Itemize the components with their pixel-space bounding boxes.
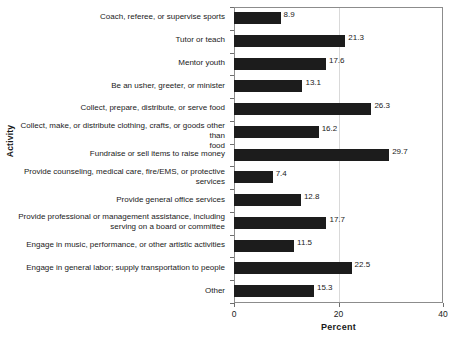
bar-row: 7.4: [234, 166, 443, 189]
category-label: Collect, make, or distribute clothing, c…: [10, 121, 225, 151]
bar-row: 17.7: [234, 212, 443, 235]
bar: [234, 262, 352, 274]
x-tick-label: 0: [232, 309, 237, 319]
category-label: Collect, prepare, distribute, or serve f…: [10, 103, 225, 113]
category-labels: Coach, referee, or supervise sportsTutor…: [0, 7, 230, 303]
bar-row: 15.3: [234, 280, 443, 303]
bar: [234, 126, 319, 138]
y-tick: [230, 235, 234, 236]
bar: [234, 149, 389, 161]
x-tick: [339, 303, 340, 307]
category-label: Be an usher, greeter, or minister: [10, 81, 225, 91]
bar: [234, 217, 326, 229]
y-tick: [230, 166, 234, 167]
category-label: Provide counseling, medical care, fire/E…: [10, 167, 225, 187]
bar-value-label: 8.9: [284, 10, 295, 19]
x-tick: [443, 303, 444, 307]
y-tick: [230, 53, 234, 54]
category-label: Tutor or teach: [10, 35, 225, 45]
bar-row: 22.5: [234, 257, 443, 280]
x-tick-label: 40: [438, 309, 447, 319]
bar-row: 12.8: [234, 189, 443, 212]
bar-value-label: 26.3: [374, 101, 390, 110]
category-label: Provide general office services: [10, 195, 225, 205]
bar-rows: 8.921.317.613.126.316.229.77.412.817.711…: [234, 7, 443, 303]
bar: [234, 171, 273, 183]
bar-value-label: 17.7: [329, 215, 345, 224]
bar-value-label: 11.5: [297, 238, 312, 247]
bar-row: 17.6: [234, 53, 443, 76]
bar: [234, 240, 294, 252]
bar-row: 11.5: [234, 235, 443, 258]
bar: [234, 12, 281, 24]
x-tick: [234, 303, 235, 307]
y-tick: [230, 75, 234, 76]
bar: [234, 285, 314, 297]
y-tick: [230, 98, 234, 99]
bar-value-label: 13.1: [305, 78, 321, 87]
y-tick: [230, 7, 234, 8]
category-label: Provide professional or management assis…: [10, 212, 225, 232]
category-label: Coach, referee, or supervise sports: [10, 12, 225, 22]
y-tick: [230, 257, 234, 258]
y-tick: [230, 212, 234, 213]
category-label: Other: [10, 286, 225, 296]
bar-value-label: 16.2: [322, 124, 338, 133]
y-tick: [230, 144, 234, 145]
bar-value-label: 12.8: [304, 192, 320, 201]
bar-value-label: 21.3: [348, 33, 364, 42]
bar-row: 8.9: [234, 7, 443, 30]
bar-chart: Activity Coach, referee, or supervise sp…: [0, 0, 455, 345]
bar: [234, 35, 345, 47]
category-label: Engage in music, performance, or other a…: [10, 240, 225, 250]
bar-row: 16.2: [234, 121, 443, 144]
category-label: Engage in general labor; supply transpor…: [10, 263, 225, 273]
bar-row: 26.3: [234, 98, 443, 121]
bar-row: 21.3: [234, 30, 443, 53]
bar: [234, 80, 302, 92]
bar: [234, 103, 371, 115]
y-tick: [230, 30, 234, 31]
bar-value-label: 29.7: [392, 147, 408, 156]
x-axis-title: Percent: [234, 322, 443, 332]
category-label: Mentor youth: [10, 58, 225, 68]
bar-value-label: 7.4: [276, 169, 287, 178]
bar-row: 13.1: [234, 75, 443, 98]
bar: [234, 58, 326, 70]
y-tick: [230, 189, 234, 190]
y-tick: [230, 121, 234, 122]
bar-row: 29.7: [234, 144, 443, 167]
bar-value-label: 15.3: [317, 283, 333, 292]
bar: [234, 194, 301, 206]
category-label: Fundraise or sell items to raise money: [10, 149, 225, 159]
bar-value-label: 17.6: [329, 56, 345, 65]
bar-value-label: 22.5: [355, 260, 371, 269]
y-tick: [230, 280, 234, 281]
x-tick-label: 20: [334, 309, 343, 319]
